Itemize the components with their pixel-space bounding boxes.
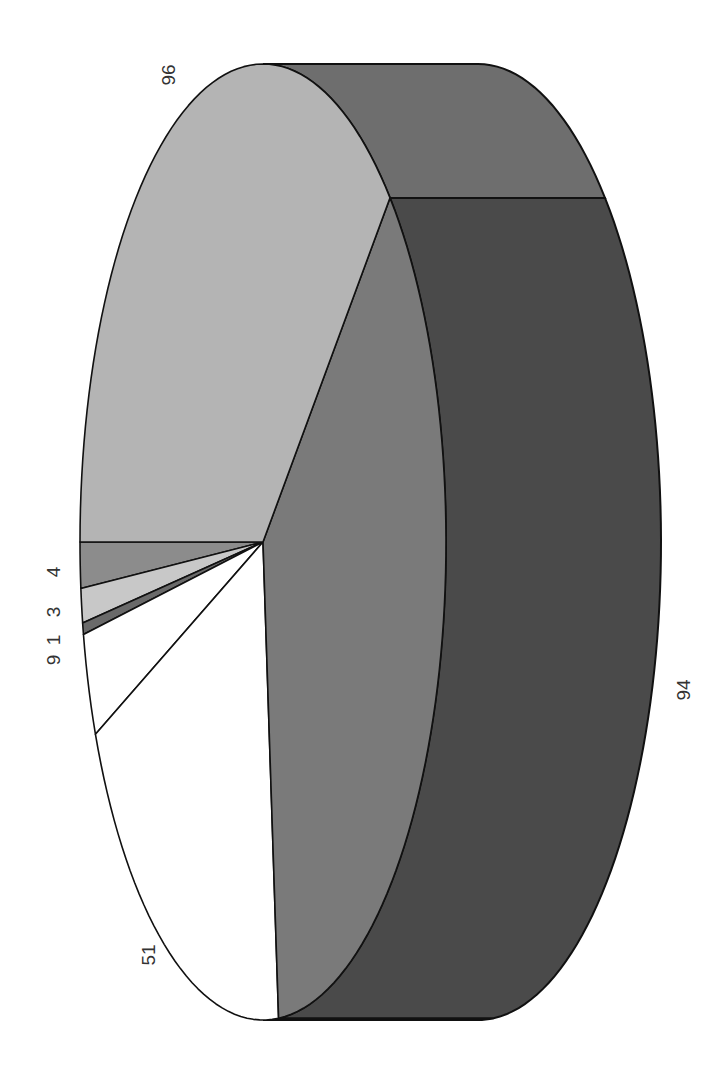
- slice-label-1: 1: [43, 635, 64, 646]
- slice-label-94: 94: [673, 679, 694, 701]
- slice-label-9: 9: [43, 655, 64, 666]
- pie-chart: 4319519496: [0, 0, 722, 1085]
- slice-label-4: 4: [43, 566, 64, 577]
- slice-label-3: 3: [43, 607, 64, 618]
- slice-label-51: 51: [138, 944, 159, 965]
- slice-label-96: 96: [158, 64, 179, 85]
- pie-top-faces: [80, 64, 446, 1020]
